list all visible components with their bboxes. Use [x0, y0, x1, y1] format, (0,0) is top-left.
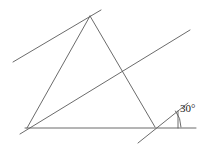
geometry-canvas — [0, 0, 208, 148]
geometry-figure: 30° — [0, 0, 208, 148]
upper-transversal-line — [13, 10, 101, 62]
triangle-left-side — [27, 16, 90, 128]
angle-label-30: 30° — [180, 103, 195, 114]
long-transversal-line — [20, 30, 190, 134]
